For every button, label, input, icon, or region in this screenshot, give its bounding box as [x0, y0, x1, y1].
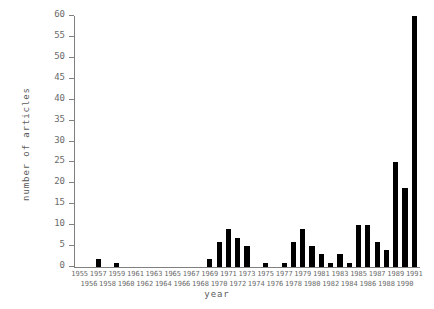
y-axis-tick: 35 [69, 120, 74, 121]
y-axis-tick: 0 [69, 266, 74, 267]
bar [365, 225, 370, 267]
x-axis-tick-label: 1965 [163, 270, 182, 279]
bar [402, 188, 407, 267]
x-axis-tick-label: 1980 [303, 280, 322, 289]
bar [347, 263, 352, 267]
x-axis-tick-label: 1987 [368, 270, 387, 279]
bar [263, 263, 268, 267]
bar [393, 162, 398, 267]
x-axis-tick-label: 1961 [126, 270, 145, 279]
y-axis-tick-label: 45 [54, 72, 65, 83]
x-axis-tick-label: 1990 [396, 280, 415, 289]
x-axis-tick-label: 1991 [405, 270, 424, 279]
bar [384, 250, 389, 267]
y-axis-tick-label: 30 [54, 135, 65, 146]
x-axis-tick-label: 1979 [293, 270, 312, 279]
x-axis-tick-labels: 1955195619571958195919601961196219631964… [74, 268, 420, 292]
y-axis-tick: 30 [69, 141, 74, 142]
bar [300, 229, 305, 267]
x-axis-tick-label: 1977 [275, 270, 294, 279]
y-axis-tick: 25 [69, 161, 74, 162]
bar [309, 246, 314, 267]
x-axis-tick-label: 1988 [377, 280, 396, 289]
x-axis-tick-label: 1982 [321, 280, 340, 289]
x-axis-tick-label: 1958 [98, 280, 117, 289]
bar [96, 259, 101, 267]
x-axis-tick-label: 1962 [135, 280, 154, 289]
y-axis-tick-label: 15 [54, 197, 65, 208]
bar [412, 16, 417, 267]
bar [217, 242, 222, 267]
bar [235, 238, 240, 267]
y-axis-tick: 40 [69, 99, 74, 100]
x-axis-tick-label: 1969 [201, 270, 220, 279]
bar [291, 242, 296, 267]
y-axis-tick: 55 [69, 36, 74, 37]
y-axis-tick-label: 0 [60, 260, 65, 271]
x-axis-tick-label: 1984 [340, 280, 359, 289]
y-axis-tick: 20 [69, 182, 74, 183]
x-axis-tick-label: 1955 [70, 270, 89, 279]
x-axis-tick-label: 1976 [266, 280, 285, 289]
y-axis-tick: 50 [69, 57, 74, 58]
bar [207, 259, 212, 267]
x-axis-tick-label: 1967 [182, 270, 201, 279]
x-axis-tick-label: 1966 [173, 280, 192, 289]
x-axis-tick-label: 1974 [247, 280, 266, 289]
plot-area: 051015202530354045505560 [74, 16, 420, 268]
bar [114, 263, 119, 267]
y-axis-tick: 5 [69, 245, 74, 246]
x-axis-tick-label: 1975 [256, 270, 275, 279]
x-axis-tick-label: 1964 [154, 280, 173, 289]
y-axis-title: number of articles [21, 69, 31, 219]
y-axis-tick-label: 35 [54, 114, 65, 125]
bar [226, 229, 231, 267]
x-axis-tick-label: 1959 [108, 270, 127, 279]
x-axis-tick-label: 1960 [117, 280, 136, 289]
bar [282, 263, 287, 267]
x-axis-tick-label: 1981 [312, 270, 331, 279]
y-axis-tick: 45 [69, 78, 74, 79]
bar [244, 246, 249, 267]
x-axis-tick-label: 1970 [210, 280, 229, 289]
y-axis-tick-label: 5 [60, 239, 65, 250]
y-axis-tick-label: 20 [54, 176, 65, 187]
x-axis-tick-label: 1978 [284, 280, 303, 289]
x-axis-tick-label: 1985 [349, 270, 368, 279]
bar [319, 254, 324, 267]
x-axis-tick-label: 1971 [219, 270, 238, 279]
y-axis-tick-label: 60 [54, 9, 65, 20]
x-axis-tick-label: 1989 [386, 270, 405, 279]
bar [375, 242, 380, 267]
x-axis-tick-label: 1963 [145, 270, 164, 279]
x-axis-tick-label: 1983 [331, 270, 350, 279]
x-axis-tick-label: 1956 [80, 280, 99, 289]
x-axis-tick-label: 1972 [228, 280, 247, 289]
bar-series [75, 16, 420, 268]
y-axis-tick: 15 [69, 203, 74, 204]
bar-chart-figure: number of articles year 0510152025303540… [0, 0, 434, 309]
x-axis-tick-label: 1968 [191, 280, 210, 289]
bar [337, 254, 342, 267]
y-axis-tick-label: 55 [54, 30, 65, 41]
x-axis-tick-label: 1957 [89, 270, 108, 279]
x-axis-tick-label: 1973 [238, 270, 257, 279]
bar [328, 263, 333, 267]
y-axis-tick: 60 [69, 15, 74, 16]
y-axis-tick-label: 40 [54, 93, 65, 104]
bar [356, 225, 361, 267]
x-axis-tick-label: 1986 [359, 280, 378, 289]
y-axis-tick-label: 10 [54, 218, 65, 229]
y-axis-tick-label: 25 [54, 155, 65, 166]
y-axis-tick: 10 [69, 224, 74, 225]
y-axis-tick-label: 50 [54, 51, 65, 62]
